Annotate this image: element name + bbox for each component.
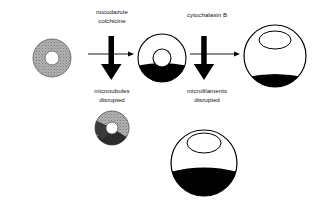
result-one-label-line1: microtubules [94, 87, 129, 94]
treatment-one-label-line2: colchicine [98, 17, 126, 24]
microfilament-disrupted-cell-lower [170, 130, 238, 200]
untreated-cell [33, 39, 71, 77]
diagram-canvas: nocodazole colchicine cytochalasin B [0, 0, 325, 218]
result-two-label-line1: microfilaments [187, 87, 227, 94]
microfilament-disrupted-cell [242, 25, 308, 92]
treatment-two-label-line1: cytochalasin B [187, 11, 227, 18]
result-one-label-line2: disrupted [99, 96, 125, 103]
result-two-label-line2: disrupted [194, 96, 220, 103]
arrow-down-treatment-one [101, 36, 122, 80]
microtubule-disrupted-cell-lower [93, 111, 129, 146]
treatment-one-label-line1: nocodazole [96, 8, 128, 15]
arrow-right-treatment-two [190, 52, 240, 57]
microtubule-disrupted-cell [136, 34, 188, 86]
cytoskeleton-diagram: nocodazole colchicine cytochalasin B [0, 0, 325, 218]
arrow-down-treatment-two [194, 36, 215, 80]
